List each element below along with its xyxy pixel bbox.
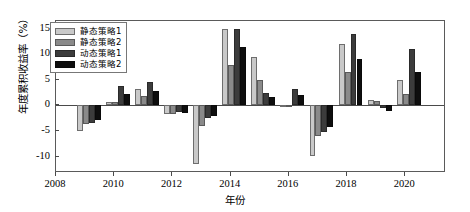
y-tick-mark [55,79,59,80]
bar [415,72,421,105]
bar [386,105,392,111]
y-tick-mark [55,104,59,105]
x-tick-mark [404,172,405,176]
y-axis-title: 年度累积收益率（%） [15,0,30,134]
y-tick-mark [55,156,59,157]
legend-item-label: 静态策略2 [80,38,121,47]
bar [327,105,333,127]
legend-item-label: 静态策略1 [80,27,121,36]
x-tick-mark [113,172,114,176]
y-tick-label: -10 [16,151,50,161]
x-tick-mark [346,172,347,176]
x-tick-mark [171,172,172,176]
legend-swatch-icon [55,39,75,46]
bar [357,59,363,105]
x-tick-label: 2014 [210,178,250,189]
bar-chart: 151050-5-10 2008201020122014201620182020… [0,0,470,212]
legend-swatch-icon [55,61,75,68]
x-tick-mark [55,172,56,176]
bar [298,95,304,105]
x-axis-title: 年份 [0,192,470,207]
bar [95,105,101,120]
x-tick-label: 2018 [326,178,366,189]
legend: 静态策略1 静态策略2 动态策略1 动态策略2 [50,22,127,73]
bar [286,105,292,107]
legend-swatch-icon [55,50,75,57]
y-tick-mark [55,130,59,131]
x-tick-label: 2010 [93,178,133,189]
x-tick-label: 2016 [268,178,308,189]
legend-swatch-icon [55,28,75,35]
bar [269,97,275,105]
x-tick-mark [288,172,289,176]
x-tick-mark [230,172,231,176]
x-tick-label: 2008 [35,178,75,189]
bar [240,47,246,106]
legend-item-label: 动态策略1 [80,49,121,58]
legend-item: 动态策略2 [55,59,121,69]
bar [182,105,188,113]
legend-item-label: 动态策略2 [80,60,121,69]
bar [153,91,159,105]
x-tick-label: 2020 [384,178,424,189]
bar [124,94,130,105]
legend-item: 静态策略2 [55,37,121,47]
legend-item: 静态策略1 [55,26,121,36]
legend-item: 动态策略1 [55,48,121,58]
bar [211,105,217,115]
x-tick-label: 2012 [151,178,191,189]
